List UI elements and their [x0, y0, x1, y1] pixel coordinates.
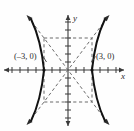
left-vertex-label: (–3, 0) — [14, 51, 37, 61]
left-vertex-dot — [42, 68, 45, 71]
y-axis-label: y — [72, 13, 77, 23]
x-axis-label: x — [120, 71, 125, 81]
graph-canvas: y x (–3, 0) (3, 0) — [0, 0, 134, 131]
hyperbola-figure: y x (–3, 0) (3, 0) — [0, 0, 134, 131]
right-vertex-dot — [90, 68, 93, 71]
right-vertex-label: (3, 0) — [96, 51, 115, 61]
